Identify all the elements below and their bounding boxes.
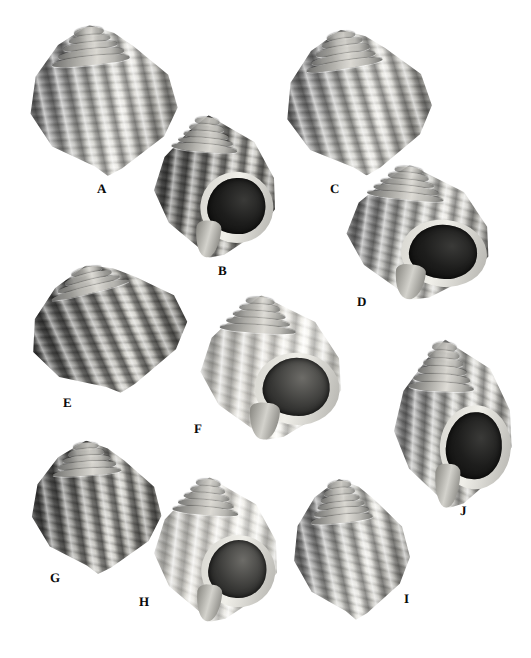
specimen-label-b: B [218,264,227,277]
shell-body [146,111,284,263]
shell-spire [14,245,201,412]
specimen-d [337,159,498,308]
specimen-f [193,291,349,445]
specimen-h [146,473,286,628]
shell-body [25,436,166,579]
specimen-label-j: J [460,504,467,517]
shell-body [193,291,349,445]
specimen-label-c: C [330,182,339,195]
specimen-label-g: G [50,571,60,584]
shell-spire [25,436,166,579]
specimen-label-d: D [357,295,366,308]
specimen-j [388,337,519,511]
specimen-b [146,111,284,263]
specimen-label-f: F [194,422,202,435]
shell-body [337,159,498,308]
specimen-g [25,436,166,579]
shell-body [388,337,519,511]
specimen-e [14,245,201,412]
specimen-label-i: I [404,592,409,605]
shell-body [146,473,286,628]
specimen-label-e: E [63,396,72,409]
specimen-label-a: A [97,182,106,195]
specimen-plate: ABCDEFGHIJ [0,0,531,658]
specimen-label-h: H [139,595,149,608]
shell-body [14,245,201,412]
